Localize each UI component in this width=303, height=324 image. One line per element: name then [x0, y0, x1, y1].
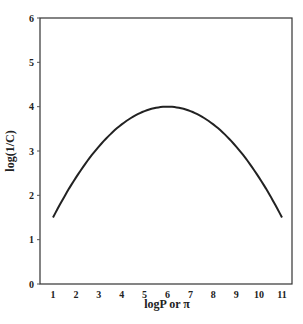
x-tick-label: 10	[254, 289, 264, 300]
y-tick-label: 4	[29, 101, 34, 112]
x-tick-label: 11	[277, 289, 286, 300]
y-tick-label: 0	[29, 279, 34, 290]
x-tick-label: 3	[96, 289, 101, 300]
y-tick-label: 5	[29, 57, 34, 68]
y-tick-label: 1	[29, 234, 34, 245]
y-axis-label: log(1/C)	[3, 130, 17, 171]
y-tick-label: 3	[29, 146, 34, 157]
plot-frame	[40, 18, 292, 284]
data-curve	[53, 107, 282, 218]
x-tick-label: 4	[119, 289, 124, 300]
y-tick-label: 2	[29, 190, 34, 201]
x-tick-label: 1	[51, 289, 56, 300]
y-axis-ticks: 0123456	[29, 13, 40, 290]
x-tick-label: 8	[211, 289, 216, 300]
x-tick-label: 9	[234, 289, 239, 300]
x-axis-label: logP or π	[144, 297, 190, 311]
y-tick-label: 6	[29, 13, 34, 24]
parabola-chart: 0123456 1234567891011 logP or π log(1/C)	[0, 0, 303, 324]
x-tick-label: 2	[73, 289, 78, 300]
